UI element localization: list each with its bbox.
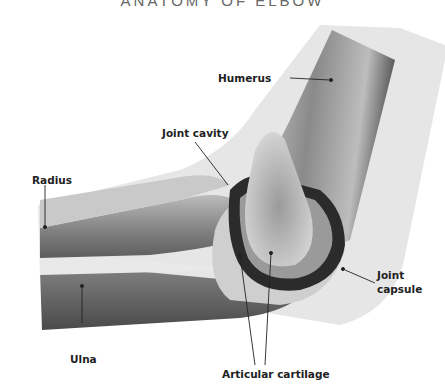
label-ulna: Ulna bbox=[70, 352, 97, 366]
label-humerus: Humerus bbox=[218, 71, 271, 85]
label-joint-capsule-line2: capsule bbox=[377, 282, 422, 296]
label-joint-capsule: Joint capsule bbox=[377, 268, 422, 296]
elbow-illustration bbox=[0, 0, 445, 391]
label-joint-cavity: Joint cavity bbox=[162, 126, 229, 140]
label-joint-capsule-line1: Joint bbox=[377, 268, 422, 282]
label-radius: Radius bbox=[32, 173, 72, 187]
label-articular-cartilage: Articular cartilage bbox=[222, 367, 330, 381]
